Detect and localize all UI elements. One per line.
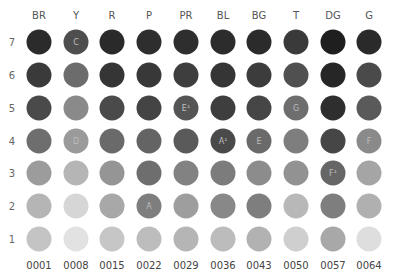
swatch-dg-3: F¹ [321, 161, 346, 186]
swatch-br-7 [27, 30, 52, 55]
swatch-label: D [73, 137, 79, 145]
swatch-t-1 [284, 227, 309, 252]
swatch-p-6 [137, 63, 162, 88]
swatch-label: E¹ [182, 104, 190, 112]
column-code-0001: 0001 [26, 260, 51, 271]
swatch-y-6 [64, 63, 89, 88]
swatch-p-5 [137, 96, 162, 121]
column-code-0057: 0057 [320, 260, 345, 271]
swatch-r-6 [100, 63, 125, 88]
swatch-y-2 [64, 194, 89, 219]
swatch-t-6 [284, 63, 309, 88]
swatch-pr-7 [174, 30, 199, 55]
column-code-0043: 0043 [246, 260, 271, 271]
swatch-r-1 [100, 227, 125, 252]
swatch-label: F [367, 137, 372, 145]
swatch-dg-4 [321, 129, 346, 154]
swatch-bl-6 [211, 63, 236, 88]
column-code-0050: 0050 [283, 260, 308, 271]
row-label-1: 1 [9, 234, 15, 245]
swatch-br-4 [27, 129, 52, 154]
swatch-br-6 [27, 63, 52, 88]
row-label-2: 2 [9, 201, 15, 212]
swatch-bg-6 [247, 63, 272, 88]
swatch-t-3 [284, 161, 309, 186]
swatch-pr-4 [174, 129, 199, 154]
swatch-p-3 [137, 161, 162, 186]
column-code-0008: 0008 [63, 260, 88, 271]
swatch-t-4 [284, 129, 309, 154]
swatch-p-2: A [137, 194, 162, 219]
swatch-y-7: C [64, 30, 89, 55]
swatch-bg-7 [247, 30, 272, 55]
swatch-dg-7 [321, 30, 346, 55]
swatch-label: G [293, 104, 299, 112]
row-label-7: 7 [9, 37, 15, 48]
swatch-g-3 [357, 161, 382, 186]
swatch-r-2 [100, 194, 125, 219]
swatch-label: C [73, 38, 79, 46]
column-code-0022: 0022 [136, 260, 161, 271]
swatch-br-3 [27, 161, 52, 186]
swatch-p-4 [137, 129, 162, 154]
column-header-bl: BL [217, 10, 229, 21]
row-label-4: 4 [9, 136, 15, 147]
swatch-bl-7 [211, 30, 236, 55]
swatch-bg-5 [247, 96, 272, 121]
swatch-t-7 [284, 30, 309, 55]
swatch-br-5 [27, 96, 52, 121]
swatch-g-4: F [357, 129, 382, 154]
swatch-pr-5: E¹ [174, 96, 199, 121]
swatch-bl-2 [211, 194, 236, 219]
swatch-pr-1 [174, 227, 199, 252]
row-label-6: 6 [9, 70, 15, 81]
swatch-dg-6 [321, 63, 346, 88]
swatch-bg-4: E [247, 129, 272, 154]
swatch-y-4: D [64, 129, 89, 154]
swatch-g-6 [357, 63, 382, 88]
column-code-0029: 0029 [173, 260, 198, 271]
column-header-br: BR [32, 10, 46, 21]
swatch-p-1 [137, 227, 162, 252]
swatch-dg-2 [321, 194, 346, 219]
swatch-pr-2 [174, 194, 199, 219]
column-code-0064: 0064 [356, 260, 381, 271]
swatch-dg-5 [321, 96, 346, 121]
swatch-p-7 [137, 30, 162, 55]
swatch-label: A [146, 202, 151, 210]
swatch-label: F¹ [329, 169, 337, 177]
swatch-y-1 [64, 227, 89, 252]
swatch-br-2 [27, 194, 52, 219]
column-code-0015: 0015 [99, 260, 124, 271]
swatch-g-5 [357, 96, 382, 121]
column-header-pr: PR [180, 10, 193, 21]
column-header-t: T [293, 10, 299, 21]
swatch-y-3 [64, 161, 89, 186]
swatch-r-5 [100, 96, 125, 121]
swatch-r-4 [100, 129, 125, 154]
column-header-p: P [146, 10, 152, 21]
swatch-bl-1 [211, 227, 236, 252]
column-header-r: R [109, 10, 116, 21]
swatch-pr-6 [174, 63, 199, 88]
swatch-g-1 [357, 227, 382, 252]
column-header-dg: DG [325, 10, 340, 21]
swatch-t-5: G [284, 96, 309, 121]
swatch-bg-3 [247, 161, 272, 186]
row-label-3: 3 [9, 168, 15, 179]
swatch-label: E [256, 137, 261, 145]
swatch-bg-2 [247, 194, 272, 219]
swatch-t-2 [284, 194, 309, 219]
swatch-label: A¹ [219, 137, 228, 145]
column-header-bg: BG [252, 10, 266, 21]
swatch-g-2 [357, 194, 382, 219]
swatch-bg-1 [247, 227, 272, 252]
swatch-dg-1 [321, 227, 346, 252]
swatch-bl-4: A¹ [211, 129, 236, 154]
swatch-bl-5 [211, 96, 236, 121]
swatch-bl-3 [211, 161, 236, 186]
swatch-pr-3 [174, 161, 199, 186]
swatch-y-5 [64, 96, 89, 121]
swatch-r-7 [100, 30, 125, 55]
column-header-g: G [365, 10, 373, 21]
